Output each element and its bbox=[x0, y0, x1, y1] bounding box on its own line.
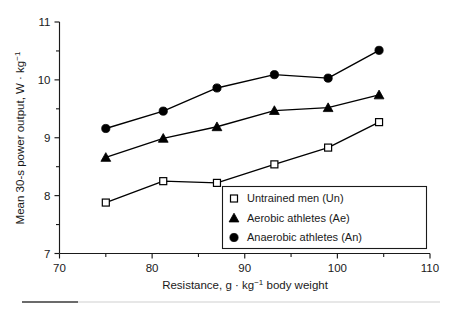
data-series-group bbox=[101, 46, 384, 206]
data-point-un-1 bbox=[160, 178, 167, 185]
legend-item-2: Anaerobic athletes (An) bbox=[230, 231, 362, 243]
chart-legend: Untrained men (Un)Aerobic athletes (Ae)A… bbox=[223, 187, 427, 249]
data-point-an-3 bbox=[270, 71, 278, 79]
x-tick-label-90: 90 bbox=[238, 262, 251, 274]
y-axis-tick-labels: 7891011 bbox=[38, 16, 51, 260]
y-tick-label-9: 9 bbox=[44, 132, 50, 144]
series-line-an bbox=[106, 50, 379, 128]
svg-text:Mean 30-s power output, W · kg: Mean 30-s power output, W · kg−1 bbox=[13, 51, 27, 224]
data-point-un-0 bbox=[102, 199, 109, 206]
data-point-un-2 bbox=[213, 179, 220, 186]
data-point-un-4 bbox=[325, 144, 332, 151]
data-point-an-5 bbox=[375, 46, 383, 54]
legend-item-0: Untrained men (Un) bbox=[231, 192, 344, 204]
y-axis-title: Mean 30-s power output, W · kg−1 bbox=[13, 51, 27, 224]
chart-figure: 7891011 708090100110 Mean 30-s power out… bbox=[0, 0, 456, 310]
data-point-an-0 bbox=[102, 124, 110, 132]
x-axis-tick-labels: 708090100110 bbox=[53, 262, 439, 274]
data-point-un-5 bbox=[376, 119, 383, 126]
y-axis-ticks bbox=[55, 22, 60, 254]
series-ae bbox=[101, 90, 384, 161]
x-tick-label-70: 70 bbox=[53, 262, 66, 274]
x-tick-label-100: 100 bbox=[328, 262, 347, 274]
series-line-ae bbox=[106, 95, 379, 158]
legend-item-1: Aerobic athletes (Ae) bbox=[229, 212, 350, 224]
data-point-an-1 bbox=[159, 107, 167, 115]
data-point-an-2 bbox=[213, 84, 221, 92]
x-tick-label-80: 80 bbox=[146, 262, 159, 274]
legend-label-2: Anaerobic athletes (An) bbox=[247, 231, 362, 243]
data-point-an-4 bbox=[324, 74, 332, 82]
x-axis-title: Resistance, g · kg−1 body weight bbox=[162, 278, 329, 292]
svg-text:Resistance, g · kg−1 body weig: Resistance, g · kg−1 body weight bbox=[162, 278, 329, 292]
y-tick-label-8: 8 bbox=[44, 190, 50, 202]
data-point-un-3 bbox=[271, 161, 278, 168]
y-tick-label-10: 10 bbox=[38, 74, 51, 86]
y-tick-label-11: 11 bbox=[39, 16, 51, 28]
line-chart: 7891011 708090100110 Mean 30-s power out… bbox=[0, 0, 456, 310]
x-tick-label-110: 110 bbox=[421, 262, 439, 274]
data-point-ae-5 bbox=[374, 90, 384, 99]
legend-label-1: Aerobic athletes (Ae) bbox=[247, 212, 350, 224]
legend-marker-0 bbox=[231, 195, 238, 202]
legend-label-0: Untrained men (Un) bbox=[247, 192, 344, 204]
y-tick-label-7: 7 bbox=[44, 248, 50, 260]
x-axis-ticks bbox=[60, 254, 431, 259]
legend-marker-2 bbox=[230, 233, 238, 241]
